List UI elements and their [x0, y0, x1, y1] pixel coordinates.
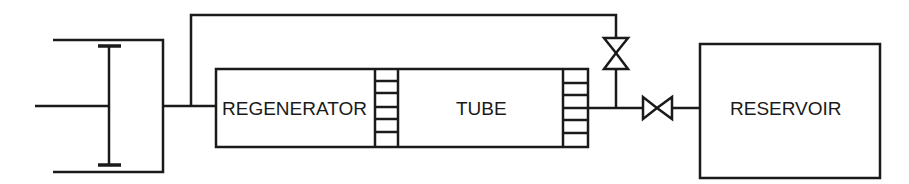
- reservoir-label: RESERVOIR: [730, 98, 842, 119]
- cold-heat-exchanger: [375, 69, 398, 147]
- piston: [35, 46, 121, 165]
- warm-heat-exchanger: [563, 69, 588, 147]
- bypass-pipe: [191, 15, 616, 106]
- regenerator-label: REGENERATOR: [222, 98, 367, 119]
- orifice-valve-icon[interactable]: [643, 97, 672, 119]
- tube-label: TUBE: [456, 98, 507, 119]
- bypass-valve-icon[interactable]: [604, 38, 628, 69]
- pulse-tube-diagram: REGENERATOR TUBE RESERVOIR: [0, 0, 909, 184]
